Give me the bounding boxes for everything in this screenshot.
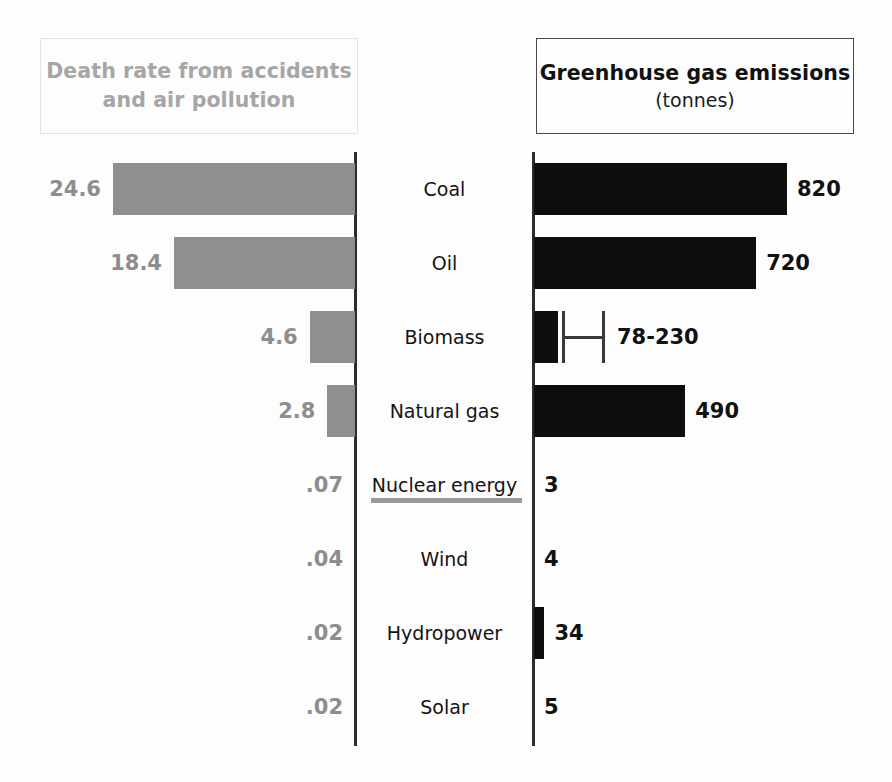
emissions-value: 5 bbox=[544, 670, 559, 744]
category-label: Oil bbox=[357, 226, 532, 300]
death-rate-bar bbox=[174, 237, 355, 289]
emissions-bar bbox=[534, 311, 558, 363]
chart-row: 18.4Oil720 bbox=[0, 226, 892, 300]
death-rate-value: .04 bbox=[0, 522, 343, 596]
category-label: Coal bbox=[357, 152, 532, 226]
category-label: Nuclear energy bbox=[357, 448, 532, 522]
chart-row: .02Solar5 bbox=[0, 670, 892, 744]
right-header-title: Greenhouse gas emissions bbox=[540, 59, 851, 87]
emissions-value: 720 bbox=[766, 226, 810, 300]
chart-row: 4.6Biomass78-230 bbox=[0, 300, 892, 374]
death-rate-value: .02 bbox=[0, 670, 343, 744]
nuclear-underline-rule bbox=[371, 498, 522, 503]
chart-row: .02Hydropower34 bbox=[0, 596, 892, 670]
left-header-line-2: and air pollution bbox=[103, 86, 296, 115]
emissions-value: 3 bbox=[544, 448, 559, 522]
category-label: Biomass bbox=[357, 300, 532, 374]
chart-row: 24.6Coal820 bbox=[0, 152, 892, 226]
chart-row: .04Wind4 bbox=[0, 522, 892, 596]
errorbar-stem bbox=[562, 336, 605, 339]
category-label: Solar bbox=[357, 670, 532, 744]
left-panel-header: Death rate from accidents and air pollut… bbox=[40, 38, 358, 134]
death-rate-value: 4.6 bbox=[0, 300, 298, 374]
category-label: Wind bbox=[357, 522, 532, 596]
chart-row: .07Nuclear energy3 bbox=[0, 448, 892, 522]
emissions-bar bbox=[534, 163, 787, 215]
death-rate-bar bbox=[327, 385, 355, 437]
emissions-range-errorbar bbox=[562, 311, 605, 363]
chart-row: 2.8Natural gas490 bbox=[0, 374, 892, 448]
death-rate-bar bbox=[310, 311, 355, 363]
death-rate-value: .07 bbox=[0, 448, 343, 522]
death-rate-value: .02 bbox=[0, 596, 343, 670]
death-rate-bar bbox=[113, 163, 355, 215]
emissions-value: 4 bbox=[544, 522, 559, 596]
emissions-value: 490 bbox=[695, 374, 739, 448]
right-panel-header: Greenhouse gas emissions (tonnes) bbox=[536, 38, 854, 134]
emissions-value: 820 bbox=[797, 152, 841, 226]
emissions-value: 34 bbox=[554, 596, 583, 670]
errorbar-cap-high bbox=[602, 311, 605, 363]
chart-container: Death rate from accidents and air pollut… bbox=[0, 0, 892, 782]
right-header-subtitle: (tonnes) bbox=[655, 87, 735, 113]
emissions-value: 78-230 bbox=[617, 300, 699, 374]
death-rate-value: 24.6 bbox=[0, 152, 101, 226]
category-label: Natural gas bbox=[357, 374, 532, 448]
death-rate-value: 18.4 bbox=[0, 226, 162, 300]
emissions-bar bbox=[534, 607, 544, 659]
category-label: Hydropower bbox=[357, 596, 532, 670]
left-header-line-1: Death rate from accidents bbox=[46, 57, 352, 86]
death-rate-value: 2.8 bbox=[0, 374, 315, 448]
errorbar-cap-low bbox=[562, 311, 565, 363]
emissions-bar bbox=[534, 385, 685, 437]
emissions-bar bbox=[534, 237, 756, 289]
